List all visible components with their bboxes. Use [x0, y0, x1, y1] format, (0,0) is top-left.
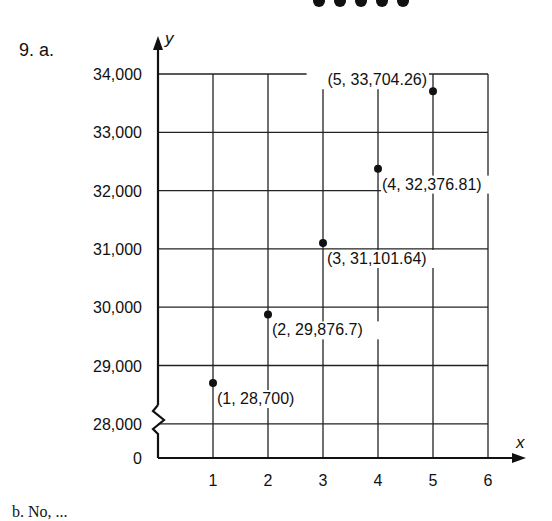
data-point-label: (5, 33,704.26) [327, 71, 427, 88]
x-tick-label: 5 [429, 472, 438, 489]
y-tick-label: 33,000 [93, 124, 142, 141]
y-tick-label: 34,000 [93, 66, 142, 83]
footer-text: b. No, ... [12, 503, 68, 521]
y-axis-label: y [164, 29, 175, 48]
x-tick-label: 4 [374, 472, 383, 489]
data-point [429, 87, 437, 95]
x-axis-arrow-icon [512, 453, 526, 463]
data-point-label: (4, 32,376.81) [382, 176, 482, 193]
x-axis-label: x [515, 433, 525, 452]
data-point-label: (2, 29,876.7) [272, 321, 363, 338]
y-axis-arrow-icon [153, 36, 163, 50]
data-point [374, 165, 382, 173]
y-tick-label: 28,000 [93, 416, 142, 433]
y-tick-label: 32,000 [93, 183, 142, 200]
data-point [319, 239, 327, 247]
y-tick-label: 29,000 [93, 358, 142, 375]
x-tick-label: 2 [264, 472, 273, 489]
y-tick-label: 30,000 [93, 299, 142, 316]
x-tick-label: 1 [209, 472, 218, 489]
data-point [209, 379, 217, 387]
data-point [264, 310, 272, 318]
data-point-label: (1, 28,700) [217, 390, 294, 407]
y-tick-label: 31,000 [93, 241, 142, 258]
data-point-label: (3, 31,101.64) [327, 250, 427, 267]
axis-break-icon [153, 405, 164, 458]
x-tick-label: 6 [484, 472, 493, 489]
y-tick-label: 0 [133, 450, 142, 467]
x-tick-label: 3 [319, 472, 328, 489]
